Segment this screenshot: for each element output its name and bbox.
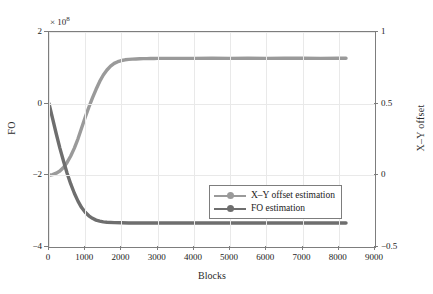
x-axis-tick-label: 3000 xyxy=(148,253,166,262)
gridline-vertical xyxy=(375,32,376,247)
legend-marker-circle-icon xyxy=(227,205,234,212)
x-axis-tick xyxy=(84,246,85,250)
x-axis-tick-label: 4000 xyxy=(184,253,202,262)
x-axis-tick xyxy=(229,246,230,250)
x-axis-tick-label: 8000 xyxy=(329,253,347,262)
gridline-vertical xyxy=(121,32,122,247)
gridline-horizontal xyxy=(49,32,375,33)
exponent-power: 8 xyxy=(66,15,70,23)
legend-swatch-icon xyxy=(214,203,246,214)
x-axis-tick-label: 6000 xyxy=(256,253,274,262)
x-axis-tick xyxy=(48,246,49,250)
legend-item[interactable]: X–Y offset estimation xyxy=(214,189,335,202)
y-axis-exponent-label: × 108 xyxy=(50,15,70,27)
y-axis-left-tick xyxy=(44,31,48,32)
y-axis-left-tick xyxy=(44,174,48,175)
figure: × 108 20−2−410.50−0.50100020003000400050… xyxy=(0,0,433,294)
legend-marker-circle-icon xyxy=(227,192,234,199)
gridline-vertical xyxy=(194,32,195,247)
x-axis-tick xyxy=(193,246,194,250)
y-axis-left-tick-label: −2 xyxy=(20,170,42,179)
x-axis-tick-label: 9000 xyxy=(365,253,383,262)
x-axis-tick xyxy=(338,246,339,250)
y-axis-right-tick-label: 1 xyxy=(381,27,386,36)
legend-item[interactable]: FO estimation xyxy=(214,202,335,215)
x-axis-tick-label: 5000 xyxy=(220,253,238,262)
legend: X–Y offset estimationFO estimation xyxy=(209,185,342,219)
gridline-horizontal xyxy=(49,247,375,248)
y-axis-left-tick-label: 0 xyxy=(20,98,42,107)
legend-label: X–Y offset estimation xyxy=(251,190,335,201)
legend-label: FO estimation xyxy=(251,203,305,214)
legend-swatch-icon xyxy=(214,190,246,201)
y-axis-right-tick xyxy=(374,103,378,104)
gridline-horizontal xyxy=(49,175,375,176)
y-axis-right-tick-label: 0.5 xyxy=(381,98,392,107)
x-axis-tick xyxy=(120,246,121,250)
y-axis-right-title: X–Y offset xyxy=(415,104,426,151)
gridline-vertical xyxy=(158,32,159,247)
x-axis-title: Blocks xyxy=(198,270,226,281)
y-axis-right-tick-label: 0 xyxy=(381,170,386,179)
y-axis-right-tick xyxy=(374,174,378,175)
x-axis-tick xyxy=(157,246,158,250)
y-axis-left-tick xyxy=(44,103,48,104)
gridline-horizontal xyxy=(49,104,375,105)
y-axis-left-tick-label: −4 xyxy=(20,242,42,251)
gridline-vertical xyxy=(85,32,86,247)
gridline-vertical xyxy=(49,32,50,247)
y-axis-left-title: FO xyxy=(6,121,17,134)
y-axis-left-tick-label: 2 xyxy=(20,27,42,36)
y-axis-right-tick xyxy=(374,31,378,32)
x-axis-tick xyxy=(302,246,303,250)
x-axis-tick-label: 0 xyxy=(46,253,51,262)
x-axis-tick-label: 1000 xyxy=(75,253,93,262)
series-line-1 xyxy=(49,58,346,175)
x-axis-tick-label: 7000 xyxy=(293,253,311,262)
x-axis-tick xyxy=(265,246,266,250)
exponent-mantissa: × 10 xyxy=(50,17,66,27)
y-axis-right-tick-label: −0.5 xyxy=(381,242,397,251)
x-axis-tick xyxy=(374,246,375,250)
x-axis-tick-label: 2000 xyxy=(111,253,129,262)
